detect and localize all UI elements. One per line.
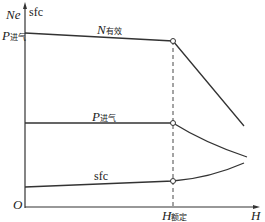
sfc-curve (25, 163, 244, 187)
sfc-rated-marker (171, 179, 176, 184)
p-rated-marker (171, 121, 176, 126)
n-effective-curve (25, 33, 244, 126)
x-tick-label-h-rated: H额定 (162, 209, 187, 222)
y-axis-label-sfc: sfc (29, 6, 43, 18)
n-effective-main: N (97, 22, 106, 37)
n-effective-sub: 有效 (106, 27, 122, 36)
x-axis-label-h: H (251, 209, 260, 222)
sfc-curve-label: sfc (94, 170, 108, 182)
n-effective-label: N有效 (97, 23, 122, 36)
p-intake-curve-label: P进气 (92, 110, 116, 123)
origin-label: O (13, 198, 22, 211)
h-rated-main: H (162, 208, 171, 222)
diagram-canvas (0, 0, 265, 222)
p-intake-curve-sub: 进气 (100, 114, 116, 123)
p-intake-main: P (2, 28, 10, 43)
n-rated-marker (171, 39, 176, 44)
y-axis-label-ne: Ne (6, 8, 20, 21)
p-intake-curve-main: P (92, 109, 100, 124)
y-tick-label-p-intake: P进气 (2, 29, 26, 42)
p-intake-sub: 进气 (10, 33, 26, 42)
h-rated-sub: 额定 (171, 213, 187, 222)
y-axis-arrow-icon (23, 2, 27, 9)
p-intake-curve (25, 123, 247, 157)
